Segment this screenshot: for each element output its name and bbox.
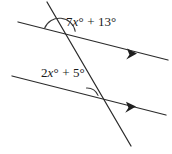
arrowhead-lower-icon bbox=[125, 102, 136, 113]
angle-label-top: 7x° + 13° bbox=[66, 15, 116, 28]
parallel-line-lower bbox=[12, 76, 166, 115]
angle-arc-lower bbox=[87, 88, 99, 95]
geometry-figure: 7x° + 13° 2x° + 5° bbox=[0, 0, 172, 154]
angle-label-bottom: 2x° + 5° bbox=[41, 66, 85, 79]
